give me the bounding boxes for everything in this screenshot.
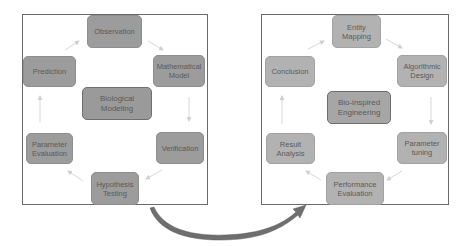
center-label: Bio-inspired Engineering [332,98,386,118]
node-label: Observation [94,27,134,36]
node-result-analysis: Result Analysis [266,133,315,164]
center-label: Biological Modeling [95,94,139,114]
node-verification: Verification [156,132,204,164]
node-label: Parameter Evaluation [28,140,72,158]
node-parameter-tuning: Parameter tuning [397,132,447,164]
node-label: Performance Evaluation [328,180,382,198]
node-label: Hypothesis Testing [93,180,137,198]
center-biological-modeling: Biological Modeling [82,87,152,120]
node-label: Algorithmic Design [400,62,444,80]
node-label: Conclusion [271,67,308,76]
node-observation: Observation [87,15,142,48]
node-conclusion: Conclusion [265,56,315,87]
node-label: Mathematical Model [154,62,204,80]
center-bio-inspired-engineering: Bio-inspired Engineering [327,91,391,124]
node-parameter-evaluation: Parameter Evaluation [26,133,73,164]
node-prediction: Prediction [23,56,76,87]
node-label: Verification [162,144,199,153]
node-entity-mapping: Entity Mapping [332,15,381,48]
node-label: Parameter tuning [400,139,444,157]
node-mathematical-model: Mathematical Model [153,55,205,87]
node-performance-evaluation: Performance Evaluation [326,172,384,205]
node-label: Result Analysis [271,140,311,158]
node-algorithmic-design: Algorithmic Design [397,55,447,87]
node-label: Entity Mapping [339,23,375,41]
node-label: Prediction [33,67,66,76]
node-hypothesis-testing: Hypothesis Testing [91,172,139,205]
transfer-arrow-icon [150,205,306,240]
